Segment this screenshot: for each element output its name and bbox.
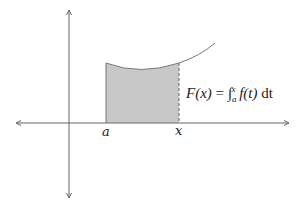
function-curve (106, 43, 215, 70)
label-x: x (175, 123, 182, 138)
formula-differential: dt (261, 85, 273, 101)
integral-diagram: a x F(x) = ∫ax f(t) dt (0, 0, 308, 206)
shaded-area (106, 63, 179, 123)
formula-upper-limit: x (231, 84, 235, 94)
formula-lhs: F(x) (186, 85, 212, 101)
formula-equals: = (216, 85, 224, 101)
formula-integrand: f(t) (239, 85, 257, 101)
integral-formula: F(x) = ∫ax f(t) dt (186, 84, 273, 104)
label-a: a (102, 124, 110, 139)
formula-lower-limit: a (232, 94, 237, 104)
